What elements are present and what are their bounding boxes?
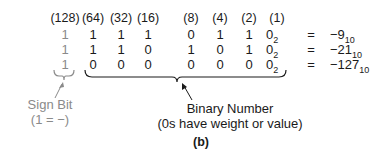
weight-128: (128) (50, 12, 80, 25)
last-bit: 02 (266, 28, 288, 43)
sign-bit: 1 (58, 58, 72, 71)
binary-number-brace (85, 70, 286, 82)
equals-sign: = (305, 58, 317, 71)
sign-bit: 1 (58, 43, 72, 56)
bit: 1 (184, 43, 198, 56)
weight-4: (4) (209, 12, 231, 25)
bit: 0 (114, 58, 128, 71)
binary-number-label-title: Binary Number (140, 101, 320, 116)
decimal-value: −910 (330, 28, 355, 43)
sign-bit-label: Sign Bit (1 = −) (10, 97, 90, 127)
last-bit: 02 (266, 58, 288, 73)
bit: 0 (213, 43, 227, 56)
weight-16: (16) (135, 12, 161, 25)
sign-bit-label-note: (1 = −) (10, 112, 90, 127)
weight-64: (64) (80, 12, 106, 25)
bit: 0 (184, 58, 198, 71)
equals-sign: = (305, 43, 317, 56)
bit: 0 (242, 58, 256, 71)
bit: 0 (86, 58, 100, 71)
sign-bit: 1 (58, 28, 72, 41)
bit: 0 (213, 58, 227, 71)
bit: 1 (114, 43, 128, 56)
decimal-value: −12710 (330, 58, 369, 73)
bit: 1 (114, 28, 128, 41)
decimal-value: −2110 (330, 43, 362, 58)
bit: 1 (86, 28, 100, 41)
figure-caption: (b) (186, 135, 216, 150)
bit: 0 (141, 58, 155, 71)
weight-32: (32) (108, 12, 134, 25)
bit: 1 (86, 43, 100, 56)
bit: 1 (213, 28, 227, 41)
bit: 1 (242, 43, 256, 56)
bit: 0 (184, 28, 198, 41)
binary-number-label-note: (0s have weight or value) (140, 116, 320, 131)
binary-number-label: Binary Number (0s have weight or value) (140, 101, 320, 131)
weight-8: (8) (180, 12, 202, 25)
bit: 1 (141, 28, 155, 41)
weight-2: (2) (238, 12, 260, 25)
sign-bit-arrowhead-icon (59, 82, 64, 88)
weight-1: (1) (266, 12, 288, 25)
sign-bit-label-title: Sign Bit (10, 97, 90, 112)
last-bit: 02 (266, 43, 288, 58)
bit: 1 (242, 28, 256, 41)
equals-sign: = (305, 28, 317, 41)
bit: 0 (141, 43, 155, 56)
binary-number-arrow (184, 86, 192, 100)
